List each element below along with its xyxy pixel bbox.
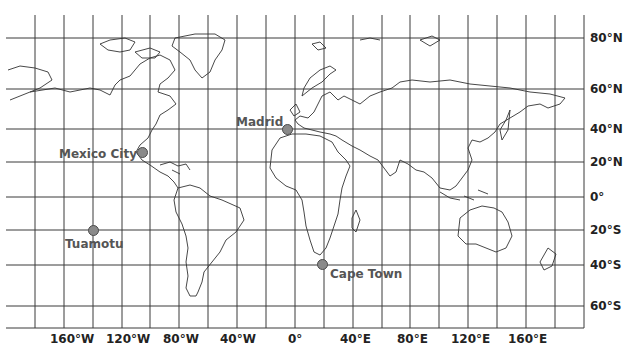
city-label-mexico-city: Mexico City: [59, 148, 137, 160]
longitude-label-40e: 40°E: [340, 333, 371, 345]
longitude-label-120w: 120°W: [106, 333, 150, 345]
latitude-label-equator: 0°: [590, 191, 604, 203]
city-label-cape-town: Cape Town: [330, 268, 402, 280]
longitude-label-80w: 80°W: [163, 333, 199, 345]
longitude-label-160e: 160°E: [508, 333, 547, 345]
city-marker-madrid[interactable]: [282, 124, 293, 135]
latitude-label-20s: 20°S: [590, 224, 621, 236]
longitude-label-120e: 120°E: [451, 333, 490, 345]
longitude-label-40w: 40°W: [220, 333, 256, 345]
city-label-tuamotu: Tuamotu: [65, 238, 124, 250]
latitude-label-40n: 40°N: [590, 123, 623, 135]
city-marker-cape-town[interactable]: [317, 259, 328, 270]
city-marker-mexico-city[interactable]: [137, 147, 148, 158]
latitude-label-20n: 20°N: [590, 156, 623, 168]
graticule: [6, 15, 584, 328]
longitude-label-80e: 80°E: [397, 333, 428, 345]
city-label-madrid: Madrid: [236, 116, 283, 128]
latitude-label-80n: 80°N: [590, 32, 623, 44]
longitude-label-160w: 160°W: [50, 333, 94, 345]
latitude-label-60s: 60°S: [590, 300, 621, 312]
world-map: [0, 0, 626, 351]
latitude-label-40s: 40°S: [590, 259, 621, 271]
longitude-label-0: 0°: [288, 333, 302, 345]
coastlines: [8, 34, 565, 296]
city-marker-tuamotu[interactable]: [88, 225, 99, 236]
latitude-label-60n: 60°N: [590, 83, 623, 95]
